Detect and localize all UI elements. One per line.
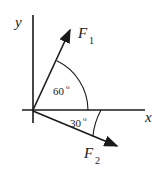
force-vector-diagram: y x F 1 F 2 60 o 30 o: [0, 0, 158, 172]
vector-f1-label: F: [77, 25, 88, 41]
vector-f2-label: F: [83, 145, 94, 161]
vector-f1-group: F 1: [33, 25, 94, 110]
vector-f1-label-subscript: 1: [89, 35, 94, 46]
angle-arc-30: [93, 110, 101, 137]
angle-label-30: 30: [70, 117, 82, 129]
vector-f2-label-subscript: 2: [95, 155, 100, 166]
vector-f1-line: [33, 30, 70, 110]
x-axis-label: x: [144, 109, 152, 125]
y-axis-label: y: [13, 14, 22, 30]
angle-label-30-degree-icon: o: [83, 115, 87, 123]
angle-label-60-degree-icon: o: [66, 83, 70, 91]
angle-label-60: 60: [53, 85, 65, 97]
vector-diagram-canvas: y x F 1 F 2 60 o 30 o: [0, 0, 158, 172]
